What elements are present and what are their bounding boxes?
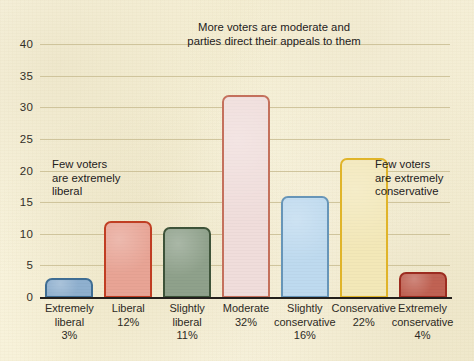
y-tick-label-10: 10 [0,228,33,240]
y-tick-label-20: 20 [0,165,33,177]
y-tick-label-35: 35 [0,70,33,82]
bar-fill-texture [224,97,268,296]
bar-fill-texture [47,280,91,296]
annotation-left: Few voters are extremely liberal [52,158,156,199]
bar-fill-texture [401,274,445,296]
y-tick-label-30: 30 [0,101,33,113]
y-tick-label-25: 25 [0,133,33,145]
gridline-35 [40,76,450,77]
x-axis-label: Extremely conservative 4% [381,302,465,343]
bar[interactable] [222,95,270,298]
bar-fill-texture [283,198,327,296]
bar-fill-texture [165,229,209,296]
bar[interactable] [399,272,447,298]
bar[interactable] [104,221,152,298]
annotation-top: More voters are moderate and parties dir… [186,21,362,48]
bar[interactable] [45,278,93,298]
chart-page: 0510152025303540 Extremely liberal 3%Lib… [0,0,474,361]
x-axis-line [40,297,452,299]
bar[interactable] [281,196,329,298]
y-tick-label-40: 40 [0,38,33,50]
y-tick-label-15: 15 [0,196,33,208]
bar-fill-texture [106,223,150,296]
y-tick-label-5: 5 [0,259,33,271]
chart-plot-area: 0510152025303540 Extremely liberal 3%Lib… [0,0,474,361]
bar[interactable] [163,227,211,298]
annotation-right: Few voters are extremely conservative [375,158,473,199]
